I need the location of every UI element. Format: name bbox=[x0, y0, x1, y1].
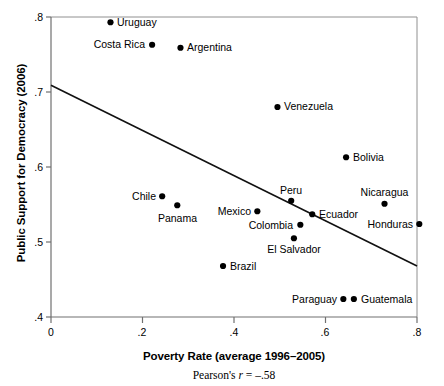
x-tick-label-1: .2 bbox=[129, 327, 155, 337]
pearson-r-caption: Pearson's r = –.58 bbox=[51, 369, 417, 381]
point-label-el-salvador: El Salvador bbox=[255, 244, 333, 255]
y-tick-label-1: .5 bbox=[17, 237, 43, 247]
scatter-plot-figure: Public Support for Democracy (2006) .8 .… bbox=[0, 0, 444, 386]
regression-line bbox=[51, 85, 417, 266]
x-tick-label-0: 0 bbox=[38, 327, 64, 337]
y-tick-label-4: .8 bbox=[17, 12, 43, 22]
point-label-chile: Chile bbox=[91, 191, 156, 202]
data-point bbox=[416, 221, 422, 227]
data-point bbox=[149, 42, 155, 48]
plot-area: Uruguay Costa Rica Argentina Venezuela B… bbox=[51, 17, 417, 317]
y-tick-label-0: .4 bbox=[17, 312, 43, 322]
caption-prefix: Pearson's bbox=[193, 369, 239, 381]
point-label-argentina: Argentina bbox=[187, 42, 232, 53]
data-point bbox=[297, 222, 303, 228]
data-point bbox=[174, 202, 180, 208]
data-point bbox=[254, 208, 260, 214]
data-point bbox=[381, 201, 387, 207]
x-axis-title: Poverty Rate (average 1996–2005) bbox=[51, 350, 417, 362]
data-point bbox=[288, 198, 294, 204]
data-point bbox=[340, 296, 346, 302]
point-label-nicaragua: Nicaragua bbox=[356, 187, 413, 198]
y-tick-label-2: .6 bbox=[17, 162, 43, 172]
data-point bbox=[291, 235, 297, 241]
data-point bbox=[274, 104, 280, 110]
point-label-uruguay: Uruguay bbox=[117, 17, 157, 28]
data-point bbox=[343, 154, 349, 160]
data-point bbox=[159, 193, 165, 199]
caption-value: = –.58 bbox=[243, 369, 275, 381]
point-label-costa-rica: Costa Rica bbox=[0, 39, 145, 50]
x-tick-label-3: .6 bbox=[312, 327, 338, 337]
data-point bbox=[177, 45, 183, 51]
point-label-colombia: Colombia bbox=[231, 220, 293, 231]
point-label-guatemala: Guatemala bbox=[361, 294, 412, 305]
y-tick-label-3: .7 bbox=[17, 87, 43, 97]
x-tick-label-2: .4 bbox=[221, 327, 247, 337]
point-label-venezuela: Venezuela bbox=[284, 101, 333, 112]
data-point bbox=[220, 263, 226, 269]
x-tick-label-4: .8 bbox=[404, 327, 430, 337]
point-label-mexico: Mexico bbox=[191, 206, 251, 217]
point-label-paraguay: Paraguay bbox=[273, 294, 337, 305]
data-point bbox=[107, 19, 113, 25]
point-label-brazil: Brazil bbox=[230, 261, 256, 272]
data-point bbox=[351, 296, 357, 302]
point-label-honduras: Honduras bbox=[347, 219, 413, 230]
point-label-peru: Peru bbox=[270, 185, 312, 196]
data-point bbox=[309, 211, 315, 217]
point-label-bolivia: Bolivia bbox=[353, 152, 384, 163]
